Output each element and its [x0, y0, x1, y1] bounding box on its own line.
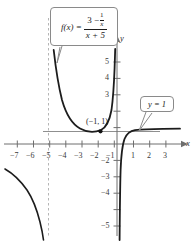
inner-numerator: 1: [100, 12, 104, 19]
callout-function-denominator: x + 5: [84, 31, 107, 40]
x-tick-label: −7: [10, 152, 19, 160]
inner-denominator: x: [100, 21, 103, 28]
x-tick-label: −4: [58, 152, 67, 160]
callout-function-lhs: f(x) =: [61, 22, 82, 32]
y-tick-label: −4: [101, 189, 110, 197]
callout-horizontal-asymptote: y = 1: [140, 96, 174, 112]
x-axis-label: x: [186, 139, 190, 148]
x-tick-label: 1: [131, 152, 135, 160]
inner-fraction-one-over-x: 1 x: [100, 12, 104, 28]
x-tick-label: 3: [163, 152, 167, 160]
numerator-left-term: 3 −: [87, 16, 99, 25]
callout-function-fraction: 3 − 1 x x + 5: [84, 12, 107, 40]
callout-function-numerator: 3 − 1 x: [85, 12, 105, 28]
x-tick-label: −2: [90, 152, 99, 160]
y-tick-label: 3: [105, 91, 109, 99]
callout-function-formula: f(x) = 3 − 1 x x + 5: [50, 7, 118, 46]
x-tick-label: 2: [147, 152, 151, 160]
callout-function-pointer: [57, 46, 62, 63]
y-tick-label: −5: [101, 222, 110, 230]
y-tick-label: −2: [101, 157, 110, 165]
callout-y1-pointer: [139, 112, 152, 131]
x-tick-label: −6: [26, 152, 35, 160]
rational-function-figure: −7 −6 −5 −4 −3 −2 −1 1 2 3 5 4 3 −2 −3 −…: [0, 0, 195, 241]
x-tick-label: −3: [74, 152, 83, 160]
curve-left-branch: [5, 169, 44, 240]
y-axis-label: y: [120, 34, 124, 43]
callout-y1-label: y = 1: [148, 99, 166, 109]
point-label-minus1-1: (−1, 1): [86, 118, 108, 126]
y-tick-label: 5: [105, 58, 109, 66]
x-tick-label: −5: [42, 152, 51, 160]
y-tick-label: −3: [101, 173, 110, 181]
marked-point-minus1-1: [98, 129, 102, 133]
y-tick-label: 4: [105, 74, 109, 82]
